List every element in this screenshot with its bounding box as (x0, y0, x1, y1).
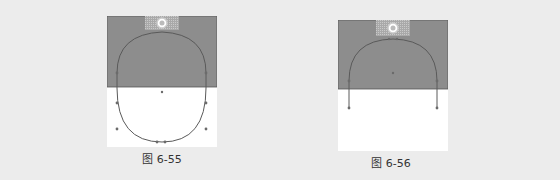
figure-6-55 (107, 16, 217, 147)
caption-6-56: 图 6-56 (371, 154, 410, 170)
figure-6-56 (338, 20, 448, 151)
path-illustration-6-56 (338, 20, 448, 151)
path-illustration-6-55 (107, 16, 217, 147)
caption-6-55: 图 6-55 (142, 150, 181, 166)
